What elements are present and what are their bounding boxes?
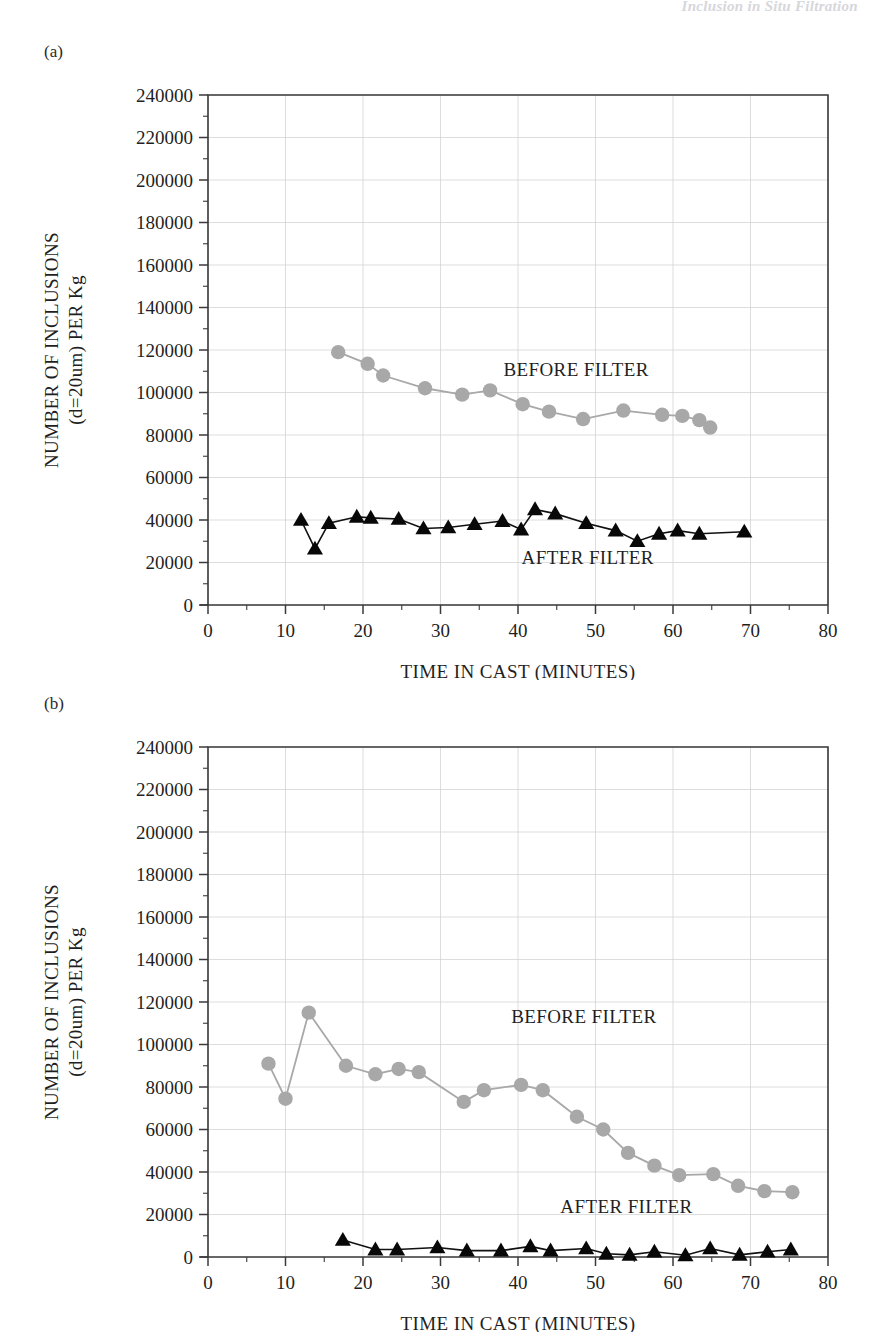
data-point-before xyxy=(570,1110,584,1124)
y-tick-label: 160000 xyxy=(136,255,193,276)
data-point-before xyxy=(302,1005,316,1019)
data-point-before xyxy=(418,381,432,395)
data-point-before xyxy=(391,1062,405,1076)
y-tick-label: 20000 xyxy=(146,552,194,573)
data-point-before xyxy=(455,387,469,401)
data-point-before xyxy=(616,403,630,417)
data-point-before xyxy=(457,1095,471,1109)
y-tick-label: 180000 xyxy=(136,212,193,233)
data-point-after xyxy=(527,501,543,515)
y-tick-label: 240000 xyxy=(136,737,193,758)
panel-label-b: (b) xyxy=(44,694,64,714)
data-point-after xyxy=(783,1242,799,1256)
y-tick-label: 180000 xyxy=(136,864,193,885)
data-point-before xyxy=(655,408,669,422)
x-tick-label: 0 xyxy=(203,1272,213,1293)
y-axis-title-line2: (d=20um) PER Kg xyxy=(65,927,87,1077)
data-point-before xyxy=(647,1158,661,1172)
y-tick-label: 140000 xyxy=(136,949,193,970)
data-point-before xyxy=(515,397,529,411)
label-before-filter: BEFORE FILTER xyxy=(511,1006,656,1027)
data-point-before xyxy=(412,1065,426,1079)
y-axis-title: NUMBER OF INCLUSIONS(d=20um) PER Kg xyxy=(41,232,87,468)
data-point-before xyxy=(703,420,717,434)
chart-panel-b: 0200004000060000800001000001200001400001… xyxy=(0,712,890,1337)
x-axis: 01020304050607080 xyxy=(203,605,837,641)
y-tick-label: 60000 xyxy=(146,1119,194,1140)
data-point-after xyxy=(293,512,309,526)
data-point-after xyxy=(429,1239,445,1253)
x-axis: 01020304050607080 xyxy=(203,1257,837,1293)
data-point-after xyxy=(578,1240,594,1254)
y-tick-label: 120000 xyxy=(136,340,193,361)
y-tick-label: 80000 xyxy=(146,425,194,446)
chart-svg-a: 0200004000060000800001000001200001400001… xyxy=(0,60,890,680)
x-tick-label: 10 xyxy=(276,620,295,641)
x-tick-label: 20 xyxy=(354,1272,373,1293)
data-point-after xyxy=(307,541,323,555)
data-point-before xyxy=(596,1122,610,1136)
x-axis-title: TIME IN CAST (MINUTES) xyxy=(401,1313,636,1332)
label-after-filter: AFTER FILTER xyxy=(522,547,654,568)
x-tick-label: 30 xyxy=(431,1272,450,1293)
data-point-after xyxy=(670,523,686,537)
chart-svg-b: 0200004000060000800001000001200001400001… xyxy=(0,712,890,1332)
data-point-after xyxy=(646,1244,662,1258)
x-tick-label: 70 xyxy=(741,620,760,641)
data-point-before xyxy=(339,1059,353,1073)
y-axis: 0200004000060000800001000001200001400001… xyxy=(136,737,208,1268)
data-point-after xyxy=(349,509,365,523)
figure-page: Inclusion in Situ Filtration (a) 0200004… xyxy=(0,0,890,1341)
data-point-before xyxy=(757,1184,771,1198)
y-axis-title: NUMBER OF INCLUSIONS(d=20um) PER Kg xyxy=(41,884,87,1120)
data-point-before xyxy=(360,357,374,371)
data-point-after xyxy=(391,511,407,525)
running-head: Inclusion in Situ Filtration xyxy=(682,0,858,15)
data-point-before xyxy=(675,409,689,423)
data-point-before xyxy=(331,345,345,359)
data-point-after xyxy=(415,520,431,534)
x-tick-label: 40 xyxy=(509,620,528,641)
y-tick-label: 240000 xyxy=(136,85,193,106)
label-before-filter: BEFORE FILTER xyxy=(503,359,648,380)
series-line-after xyxy=(343,1240,791,1255)
y-axis-title-line1: NUMBER OF INCLUSIONS xyxy=(41,884,62,1120)
chart-panel-a: 0200004000060000800001000001200001400001… xyxy=(0,60,890,680)
x-tick-label: 20 xyxy=(354,620,373,641)
y-tick-label: 40000 xyxy=(146,510,194,531)
data-point-before xyxy=(621,1146,635,1160)
series-line-before xyxy=(268,1013,792,1193)
x-tick-label: 50 xyxy=(586,1272,605,1293)
data-point-after xyxy=(702,1240,718,1254)
data-point-before xyxy=(731,1179,745,1193)
y-tick-label: 80000 xyxy=(146,1077,194,1098)
data-point-after xyxy=(389,1242,405,1256)
data-point-before xyxy=(672,1168,686,1182)
data-point-after xyxy=(335,1232,351,1246)
y-tick-label: 160000 xyxy=(136,907,193,928)
x-tick-label: 80 xyxy=(819,620,838,641)
data-point-before xyxy=(785,1185,799,1199)
x-tick-label: 60 xyxy=(664,1272,683,1293)
x-tick-label: 70 xyxy=(741,1272,760,1293)
x-axis-title: TIME IN CAST (MINUTES) xyxy=(401,661,636,680)
y-tick-label: 60000 xyxy=(146,467,194,488)
x-tick-label: 30 xyxy=(431,620,450,641)
panel-label-a: (a) xyxy=(44,42,63,62)
data-point-after xyxy=(522,1238,538,1252)
y-tick-label: 200000 xyxy=(136,822,193,843)
data-point-before xyxy=(576,412,590,426)
y-tick-label: 220000 xyxy=(136,127,193,148)
y-tick-label: 120000 xyxy=(136,992,193,1013)
y-tick-label: 140000 xyxy=(136,297,193,318)
x-tick-label: 60 xyxy=(664,620,683,641)
y-tick-label: 200000 xyxy=(136,170,193,191)
data-point-before xyxy=(278,1091,292,1105)
y-axis: 0200004000060000800001000001200001400001… xyxy=(136,85,208,616)
y-tick-label: 0 xyxy=(184,1247,194,1268)
y-tick-label: 100000 xyxy=(136,382,193,403)
data-point-before xyxy=(483,383,497,397)
label-after-filter: AFTER FILTER xyxy=(560,1196,692,1217)
x-tick-label: 50 xyxy=(586,620,605,641)
data-point-before xyxy=(706,1167,720,1181)
